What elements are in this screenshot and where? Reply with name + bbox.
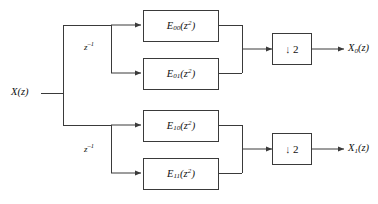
output-x1-label: X1(z) bbox=[348, 143, 369, 155]
delay-top-label: z–1 bbox=[84, 41, 94, 52]
polyphase-block-e00-label: E00(z2) bbox=[167, 20, 196, 32]
down-arrow-icon: ↓ bbox=[286, 44, 290, 55]
polyphase-block-e10-label: E10(z2) bbox=[167, 120, 196, 132]
polyphase-block-e00[interactable]: E00(z2) bbox=[143, 10, 219, 42]
polyphase-filter-bank-diagram: X(z) z–1 z–1 E00(z2) E01(z2) E10(z2) E11… bbox=[0, 0, 378, 204]
polyphase-block-e11[interactable]: E11(z2) bbox=[143, 158, 219, 190]
input-signal-label: X(z) bbox=[11, 87, 29, 98]
polyphase-block-e10[interactable]: E10(z2) bbox=[143, 110, 219, 142]
output-x0-label: X0(z) bbox=[348, 43, 369, 55]
polyphase-block-e01[interactable]: E01(z2) bbox=[143, 58, 219, 90]
polyphase-block-e11-label: E11(z2) bbox=[167, 168, 195, 180]
delay-bottom-label: z–1 bbox=[84, 143, 94, 154]
downsampler-top-label: ↓2 bbox=[285, 44, 298, 55]
downsampler-bottom[interactable]: ↓2 bbox=[272, 133, 312, 165]
polyphase-block-e01-label: E01(z2) bbox=[167, 68, 196, 80]
downsampler-bottom-label: ↓2 bbox=[285, 144, 298, 155]
down-arrow-icon: ↓ bbox=[286, 144, 290, 155]
downsampler-top[interactable]: ↓2 bbox=[272, 33, 312, 65]
